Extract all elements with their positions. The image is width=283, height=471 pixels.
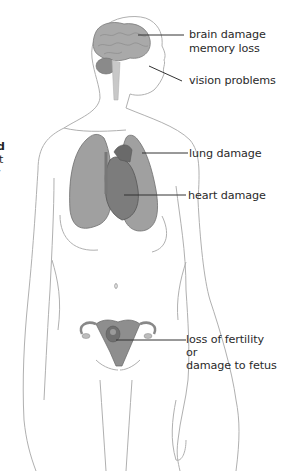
label-loss-of-fertility: loss of fertility xyxy=(186,333,264,346)
label-brain-damage: brain damage xyxy=(189,28,266,41)
label-heart-damage: heart damage xyxy=(188,189,266,202)
clipped-text-fragment: d xyxy=(0,140,5,153)
brain-icon xyxy=(93,22,150,100)
label-vision-problems: vision problems xyxy=(189,74,276,87)
label-or: or xyxy=(186,346,197,359)
anatomy-diagram: d t · brain damage memory loss vision pr… xyxy=(0,0,283,471)
label-lung-damage: lung damage xyxy=(189,147,262,160)
label-memory-loss: memory loss xyxy=(189,42,260,55)
label-damage-to-fetus: damage to fetus xyxy=(186,359,277,372)
body-illustration xyxy=(0,0,283,471)
clipped-text-fragment: · xyxy=(0,164,2,177)
uterus-icon xyxy=(81,320,155,366)
